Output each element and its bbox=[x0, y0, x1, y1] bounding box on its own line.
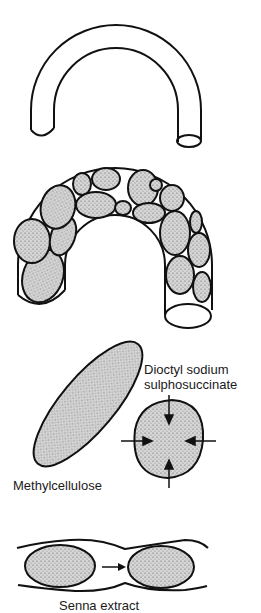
senna-peristalsis bbox=[17, 540, 208, 591]
methylcellulose-label: Methylcellulose bbox=[13, 478, 102, 493]
dioctyl-label-line2: sulphosuccinate bbox=[144, 377, 237, 392]
dioctyl-mass bbox=[121, 395, 216, 488]
dioctyl-label-line1: Dioctyl sodium bbox=[144, 362, 229, 377]
diagram-canvas bbox=[0, 0, 261, 613]
bulk-filled-colon bbox=[14, 168, 212, 328]
senna-label: Senna extract bbox=[59, 598, 139, 613]
empty-colon-tube bbox=[31, 25, 201, 147]
